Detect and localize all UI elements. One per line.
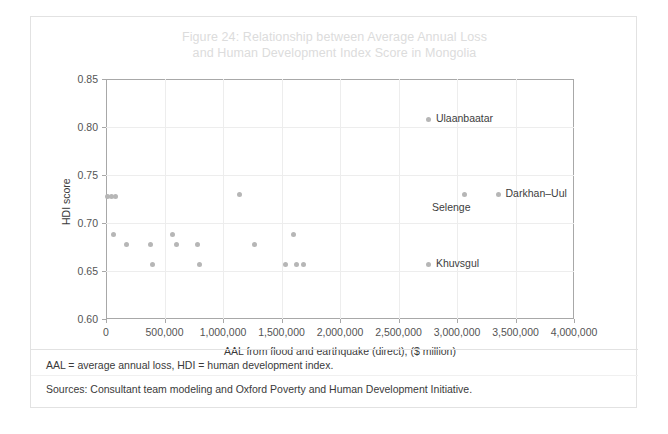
data-point: [291, 232, 296, 237]
point-label-selenge: Selenge: [432, 201, 471, 213]
y-axis-label: HDI score: [60, 178, 72, 225]
y-tick-label: 0.80: [64, 121, 98, 133]
footnote-abbreviations: AAL = average annual loss, HDI = human d…: [46, 359, 333, 371]
y-tick-label: 0.65: [64, 265, 98, 277]
x-tick-label: 2,000,000: [317, 326, 364, 338]
x-tick-mark: [516, 319, 517, 323]
data-point: [237, 192, 242, 197]
figure-container: Figure 24: Relationship between Average …: [30, 16, 637, 408]
figure-title: Figure 24: Relationship between Average …: [31, 29, 638, 61]
x-tick-mark: [223, 319, 224, 323]
x-tick-label: 4,000,000: [551, 326, 598, 338]
x-tick-label: 1,500,000: [258, 326, 305, 338]
y-tick-mark: [102, 79, 106, 80]
point-label-darkhan-uul: Darkhan–Uul: [506, 187, 567, 199]
data-point-darkhan-uul: [496, 192, 501, 197]
x-tick-mark: [574, 319, 575, 323]
x-tick-mark: [457, 319, 458, 323]
x-tick-mark: [282, 319, 283, 323]
gridline-horizontal: [106, 127, 574, 128]
data-point: [150, 262, 155, 267]
y-tick-mark: [102, 223, 106, 224]
x-tick-label: 500,000: [146, 326, 184, 338]
x-tick-label: 2,500,000: [375, 326, 422, 338]
scatter-plot: UlaanbaatarKhuvsgulSelengeDarkhan–Uul 0.…: [106, 79, 574, 319]
data-point: [283, 262, 288, 267]
gridline-vertical: [165, 79, 166, 319]
gridline-horizontal: [106, 223, 574, 224]
x-tick-mark: [340, 319, 341, 323]
x-tick-mark: [399, 319, 400, 323]
data-point: [174, 242, 179, 247]
x-tick-mark: [106, 319, 107, 323]
data-point: [252, 242, 257, 247]
gridline-vertical: [399, 79, 400, 319]
gridline-vertical: [282, 79, 283, 319]
x-tick-label: 3,500,000: [492, 326, 539, 338]
x-tick-label: 3,000,000: [434, 326, 481, 338]
x-tick-label: 0: [103, 326, 109, 338]
y-tick-label: 0.85: [64, 73, 98, 85]
point-label-khuvsgul: Khuvsgul: [436, 257, 479, 269]
data-point: [124, 242, 129, 247]
data-point: [301, 262, 306, 267]
footnote-sources: Sources: Consultant team modeling and Ox…: [46, 383, 472, 395]
y-tick-mark: [102, 127, 106, 128]
x-axis-label: AAL from flood and earthquake (direct), …: [106, 345, 574, 357]
figure-title-line-1: Figure 24: Relationship between Average …: [31, 29, 638, 45]
data-point: [195, 242, 200, 247]
gridline-vertical: [340, 79, 341, 319]
gridline-vertical: [223, 79, 224, 319]
figure-title-line-2: and Human Development Index Score in Mon…: [31, 45, 638, 61]
footnote-divider-2: [31, 375, 638, 376]
data-point: [197, 262, 202, 267]
data-point: [148, 242, 153, 247]
data-point: [170, 232, 175, 237]
data-point: [111, 232, 116, 237]
y-tick-mark: [102, 271, 106, 272]
y-tick-mark: [102, 175, 106, 176]
data-point: [294, 262, 299, 267]
point-label-ulaanbaatar: Ulaanbaatar: [436, 112, 493, 124]
gridline-horizontal: [106, 271, 574, 272]
data-point-selenge: [462, 192, 467, 197]
data-point: [113, 194, 118, 199]
x-tick-label: 1,000,000: [200, 326, 247, 338]
y-tick-label: 0.60: [64, 313, 98, 325]
footnote-divider: [31, 349, 638, 350]
gridline-horizontal: [106, 175, 574, 176]
x-tick-mark: [165, 319, 166, 323]
